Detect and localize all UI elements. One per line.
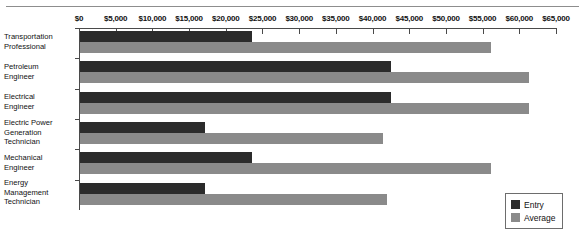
x-axis-tick <box>483 28 484 34</box>
top-divider <box>6 6 579 7</box>
plot-area <box>79 28 556 210</box>
category-axis-labels: Transportation ProfessionalPetroleum Eng… <box>3 28 76 210</box>
x-tick-label: $50,000 <box>432 14 460 24</box>
bar-chart: $0$5,000$10,000$15,000$20,000$25,000$30,… <box>0 0 585 240</box>
bar-entry <box>80 61 391 72</box>
category-label: Energy Management Technician <box>4 178 76 207</box>
bar-average <box>80 72 529 83</box>
x-axis-tick <box>299 28 300 34</box>
legend-swatch-average-icon <box>511 213 520 222</box>
category-label: Electrical Engineer <box>4 92 76 111</box>
x-tick-label: $40,000 <box>359 14 387 24</box>
bar-average <box>80 133 383 144</box>
x-tick-label: $0 <box>75 14 84 24</box>
x-tick-label: $35,000 <box>322 14 350 24</box>
x-tick-label: $55,000 <box>469 14 497 24</box>
bar-entry <box>80 152 252 163</box>
x-axis-tick <box>336 28 337 34</box>
x-axis-tick <box>262 28 263 34</box>
x-axis-tick <box>446 28 447 34</box>
legend-label-average: Average <box>524 213 556 223</box>
x-axis-tick <box>556 28 557 34</box>
bar-average <box>80 42 491 53</box>
x-tick-label: $10,000 <box>139 14 167 24</box>
category-label: Transportation Professional <box>4 32 76 51</box>
x-tick-label: $30,000 <box>285 14 313 24</box>
x-tick-label: $5,000 <box>104 14 127 24</box>
chart-legend: Entry Average <box>505 193 563 229</box>
x-axis-tick <box>373 28 374 34</box>
legend-label-entry: Entry <box>524 200 544 210</box>
bar-entry <box>80 31 252 42</box>
bar-entry <box>80 92 391 103</box>
x-axis-tick <box>409 28 410 34</box>
x-axis-tick <box>519 28 520 34</box>
legend-swatch-entry-icon <box>511 200 520 209</box>
x-tick-label: $60,000 <box>506 14 534 24</box>
x-tick-label: $45,000 <box>395 14 423 24</box>
bar-entry <box>80 122 205 133</box>
legend-item-entry: Entry <box>511 198 556 211</box>
x-tick-label: $20,000 <box>212 14 240 24</box>
bar-average <box>80 163 491 174</box>
legend-item-average: Average <box>511 211 556 224</box>
bar-entry <box>80 183 205 194</box>
plot-top-border <box>79 28 556 29</box>
category-label: Electric Power Generation Technician <box>4 118 76 147</box>
category-label: Petroleum Engineer <box>4 62 76 81</box>
bar-average <box>80 103 529 114</box>
x-axis-tick-labels: $0$5,000$10,000$15,000$20,000$25,000$30,… <box>0 14 585 26</box>
x-tick-label: $25,000 <box>249 14 277 24</box>
x-tick-label: $15,000 <box>175 14 203 24</box>
bar-average <box>80 194 387 205</box>
x-tick-label: $65,000 <box>542 14 570 24</box>
category-label: Mechanical Engineer <box>4 153 76 172</box>
